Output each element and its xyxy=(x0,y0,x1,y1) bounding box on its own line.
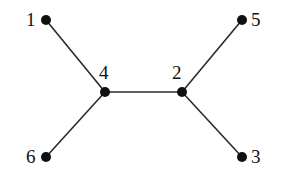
graph-edge xyxy=(182,20,242,92)
vertex-label-6: 6 xyxy=(26,147,36,166)
vertex-label-4: 4 xyxy=(99,63,109,82)
graph-canvas xyxy=(0,0,281,176)
graph-vertex xyxy=(177,87,187,97)
graph-diagram: 123456 xyxy=(0,0,281,176)
vertex-label-2: 2 xyxy=(172,63,182,82)
graph-vertex xyxy=(237,152,247,162)
graph-edge xyxy=(182,92,242,157)
graph-vertex xyxy=(41,15,51,25)
vertex-label-3: 3 xyxy=(251,147,261,166)
graph-vertex xyxy=(100,87,110,97)
graph-edge xyxy=(46,20,105,92)
graph-edge xyxy=(46,92,105,157)
vertices-group xyxy=(41,15,247,162)
graph-vertex xyxy=(237,15,247,25)
graph-vertex xyxy=(41,152,51,162)
vertex-label-1: 1 xyxy=(26,10,36,29)
edges-group xyxy=(46,20,242,157)
vertex-label-5: 5 xyxy=(251,10,261,29)
